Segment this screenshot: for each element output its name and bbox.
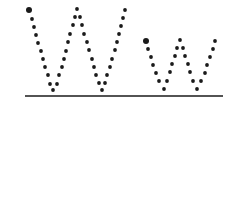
start-dot (26, 7, 32, 13)
trace-dot (71, 23, 75, 27)
trace-dot (162, 87, 166, 91)
trace-dot (123, 8, 127, 12)
trace-dot (199, 79, 203, 83)
trace-dot (36, 41, 40, 45)
trace-dot (119, 24, 123, 28)
letter-lowercase-w (143, 38, 217, 91)
trace-dot (87, 48, 91, 52)
trace-dot (46, 73, 50, 77)
trace-dot (85, 40, 89, 44)
letters-group (26, 7, 217, 92)
trace-dot (213, 39, 217, 43)
trace-dot (183, 54, 187, 58)
trace-dot (157, 79, 161, 83)
trace-dot (205, 63, 209, 67)
trace-dot (154, 71, 158, 75)
trace-dot (32, 25, 36, 29)
trace-dot (41, 57, 45, 61)
trace-dot (68, 32, 72, 36)
trace-dot (168, 70, 172, 74)
trace-dot (181, 46, 185, 50)
trace-dot (173, 54, 177, 58)
trace-dot (191, 79, 195, 83)
trace-dot (146, 47, 150, 51)
trace-dot (73, 15, 77, 19)
trace-dot (170, 62, 174, 66)
trace-dot (103, 81, 107, 85)
trace-dot (62, 57, 66, 61)
trace-dot (115, 40, 119, 44)
trace-dot (178, 38, 182, 42)
trace-dot (43, 65, 47, 69)
trace-dot (121, 16, 125, 20)
trace-dot (108, 65, 112, 69)
letter-uppercase-w (26, 7, 127, 92)
trace-dot (100, 88, 104, 92)
trace-dot (188, 70, 192, 74)
trace-dot (39, 49, 43, 53)
trace-dot (34, 33, 38, 37)
trace-dot (57, 73, 61, 77)
start-dot (143, 38, 149, 44)
trace-dot (80, 23, 84, 27)
trace-dot (55, 82, 59, 86)
trace-dot (78, 15, 82, 19)
trace-dot (60, 65, 64, 69)
trace-dot (30, 17, 34, 21)
trace-dot (97, 81, 101, 85)
tracing-canvas (0, 0, 246, 206)
trace-dot (203, 71, 207, 75)
trace-dot (94, 73, 98, 77)
trace-dot (117, 32, 121, 36)
trace-dot (66, 40, 70, 44)
trace-dot (113, 48, 117, 52)
trace-dot (92, 65, 96, 69)
trace-dot (110, 57, 114, 61)
trace-dot (165, 79, 169, 83)
trace-dot (64, 49, 68, 53)
trace-dot (208, 55, 212, 59)
trace-dot (82, 32, 86, 36)
trace-dot (48, 82, 52, 86)
trace-dot (75, 7, 79, 11)
trace-dot (186, 62, 190, 66)
trace-dot (151, 63, 155, 67)
trace-dot (105, 73, 109, 77)
trace-dot (149, 55, 153, 59)
trace-dot (90, 57, 94, 61)
trace-dot (195, 87, 199, 91)
trace-dot (51, 88, 55, 92)
trace-dot (175, 46, 179, 50)
trace-dot (211, 47, 215, 51)
